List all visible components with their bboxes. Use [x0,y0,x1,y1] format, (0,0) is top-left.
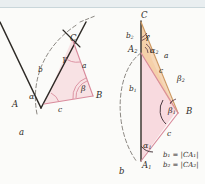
panel-b-angle-alpha2-label: α2 [150,47,158,56]
panel-a-vertex-B-label: B [96,91,102,100]
panel-b-angle-gamma-label: γ [145,33,150,41]
panel-a-angle-gamma-label: γ [62,55,67,63]
construction-arc-b [120,53,141,162]
panel-b-legend-b2: b₂ = |CA₂| [163,162,199,169]
panel-b-side-a-label: a [164,52,168,60]
panel-b-angle-beta1-label: β1 [168,107,176,116]
panel-b-angle-beta2-label: β2 [177,75,185,84]
panel-a-caption: a [19,128,24,137]
panel-b-vertex-A1-label: A1 [142,161,151,170]
panel-a-angle-alpha-label: α [29,93,34,101]
construction-ray-dashed [80,16,95,22]
geometry-figure: A B C a b c α β γ a C B A1 A2 a c c b1 b… [0,0,205,184]
panel-b-vertex-C-label: C [141,11,148,20]
panel-b-vertex-A2-label: A2 [128,45,137,54]
panel-a-angle-beta-label: β [81,85,86,93]
panel-b-legend-b1: b₁ = |CA₁| [163,152,199,159]
panel-a-side-b-label: b [38,66,43,74]
panel-b-vertex-B-label: B [186,107,192,116]
panel-b-side-b2-label: b2 [126,32,134,40]
panel-b-side-b1-label: b1 [129,85,137,93]
panel-a-side-c-label: c [58,106,62,114]
panel-a-vertex-C-label: C [70,34,77,43]
panel-b-side-c-upper-label: c [159,67,163,75]
panel-a-side-a-label: a [82,62,86,70]
side-b-ray [0,22,41,108]
panel-b-angle-alpha1-label: α1 [143,142,151,151]
panel-b-caption: b [119,167,124,176]
panel-b-side-c-lower-label: c [167,130,171,138]
panel-a-vertex-A-label: A [12,100,18,109]
